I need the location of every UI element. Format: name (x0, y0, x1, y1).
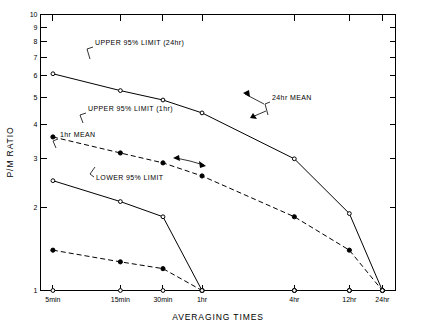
x-axis-title: AVERAGING TIMES (172, 312, 264, 322)
data-point-1-1 (118, 151, 122, 155)
y-tick-label-8: 8 (34, 38, 38, 45)
plot-frame (41, 15, 396, 291)
annotation-upper-95-1hr: UPPER 95% LIMIT (1hr) (88, 105, 173, 113)
data-point-0-0 (51, 72, 55, 76)
y-axis-ticks: 12345678910 (30, 11, 396, 294)
y-tick-label-4: 4 (34, 121, 38, 128)
x-tick-label-5min: 5min (45, 296, 60, 303)
annotation-labels: UPPER 95% LIMIT (24hr)24hr MEANUPPER 95%… (60, 39, 312, 181)
x-tick-label-12hr: 12hr (342, 296, 357, 303)
annotation-24hr-mean: 24hr MEAN (272, 94, 312, 101)
data-point-1-0 (51, 135, 55, 139)
arrow-24hr-mean-to-mean-head (250, 113, 257, 119)
annotation-1hr-mean: 1hr MEAN (60, 131, 96, 138)
chart-container: 12345678910 5min15min30min1hr4hr12hr24hr… (0, 0, 428, 331)
data-point-4-5 (347, 289, 351, 293)
leader-upper-95-24hr (87, 47, 93, 59)
data-point-0-5 (347, 212, 351, 216)
leader-upper-95-1hr (80, 113, 86, 123)
data-point-4-3 (200, 289, 204, 293)
data-point-1-3 (200, 174, 204, 178)
y-tick-label-2: 2 (34, 204, 38, 211)
annotation-lower-95: LOWER 95% LIMIT (96, 174, 164, 181)
annotation-upper-95-24hr: UPPER 95% LIMIT (24hr) (95, 39, 184, 47)
arrow-lower-to-line-head (173, 155, 180, 161)
y-axis-title: P/M RATIO (5, 127, 15, 178)
arrow-lower-to-24hr-head (199, 161, 206, 168)
data-point-0-1 (118, 89, 122, 93)
pm-ratio-vs-averaging-times-chart: 12345678910 5min15min30min1hr4hr12hr24hr… (0, 0, 428, 331)
y-tick-label-5: 5 (34, 94, 38, 101)
y-tick-label-9: 9 (34, 24, 38, 31)
x-tick-label-1hr: 1hr (197, 296, 208, 303)
x-tick-label-4hr: 4hr (289, 296, 300, 303)
x-tick-label-15min: 15min (111, 296, 130, 303)
data-point-2-0 (51, 179, 55, 183)
leader-lower-95 (90, 167, 95, 177)
leader-1hr-mean (53, 139, 58, 148)
data-point-4-4 (292, 289, 296, 293)
data-point-3-1 (118, 260, 122, 264)
data-point-4-2 (161, 289, 165, 293)
data-point-0-4 (292, 157, 296, 161)
data-point-1-5 (347, 248, 351, 252)
data-point-1-2 (161, 161, 165, 165)
data-point-4-0 (51, 289, 55, 293)
data-point-1-4 (292, 215, 296, 219)
data-point-0-3 (200, 111, 204, 115)
data-point-4-1 (118, 289, 122, 293)
x-tick-label-24hr: 24hr (375, 296, 390, 303)
arrow-24hr-mean-to-upper-head (243, 90, 250, 97)
y-tick-label-1: 1 (34, 287, 38, 294)
leader-24hr-mean (265, 102, 270, 115)
data-point-3-0 (51, 248, 55, 252)
series-path-3 (53, 250, 382, 290)
series-path-1 (53, 137, 382, 291)
data-point-2-1 (118, 200, 122, 204)
y-tick-label-7: 7 (34, 54, 38, 61)
y-tick-label-3: 3 (34, 155, 38, 162)
data-point-2-2 (161, 215, 165, 219)
annotation-leaders (53, 47, 270, 177)
data-point-3-2 (161, 267, 165, 271)
x-tick-label-30min: 30min (153, 296, 172, 303)
y-tick-label-6: 6 (34, 72, 38, 79)
data-point-4-6 (380, 289, 384, 293)
data-point-0-2 (161, 98, 165, 102)
x-axis-ticks: 5min15min30min1hr4hr12hr24hr (45, 15, 390, 303)
y-tick-label-10: 10 (30, 11, 38, 18)
